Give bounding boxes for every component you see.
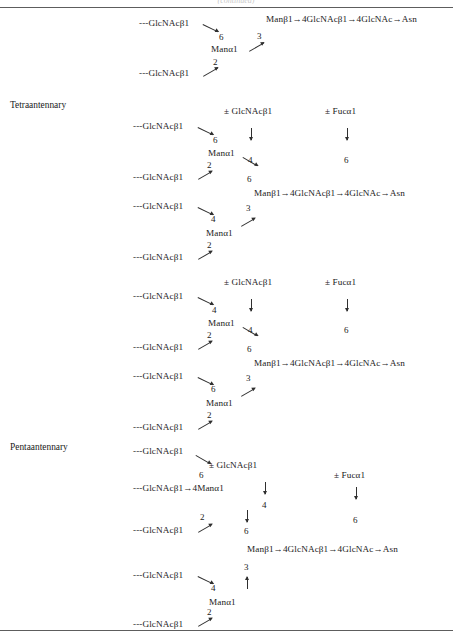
antenna-residue: ---GlcNAcβ1 (139, 18, 189, 29)
core-fucose-linkage-number: 6 (344, 325, 349, 335)
antenna-residue: ---GlcNAcβ1 (133, 371, 183, 382)
core-fucose-linkage-number: 6 (353, 515, 358, 525)
antenna-residue: ---GlcNAcβ1 (133, 446, 183, 457)
connector-line (203, 68, 218, 77)
bisecting-arrow (251, 299, 252, 311)
upper-arm-mannose: Manα1 (208, 318, 235, 329)
linkage-number: 2 (207, 410, 212, 420)
core-fucose-arrow (347, 299, 348, 311)
linkage-number: 6 (211, 384, 216, 394)
lower-arm-core-arrow (247, 577, 248, 589)
linkage-number: 2 (207, 330, 212, 340)
bottom-rule (0, 630, 453, 631)
bisecting-glcnac-label: ± GlcNAcβ1 (224, 106, 272, 117)
connector-line (249, 43, 264, 52)
connector-line (203, 24, 219, 32)
core-fucose-label: ± Fucα1 (334, 470, 365, 481)
upper-arm-core-arrow (247, 510, 248, 522)
antenna-residue: ---GlcNAcβ1 (139, 68, 189, 79)
bisecting-arrow (265, 482, 266, 494)
linkage-number: 3 (246, 373, 251, 383)
linkage-number: 6 (247, 174, 252, 184)
linkage-number: 2 (207, 607, 212, 617)
structure-name-tetraantennary: Tetraantennary (10, 100, 66, 111)
core-fucose-label: ± Fucα1 (325, 106, 356, 117)
linkage-number: 2 (213, 57, 218, 67)
upper-arm-mannose: Manα1 (208, 148, 235, 159)
linkage-number: 6 (219, 32, 224, 42)
core-fucose-arrow (347, 128, 348, 140)
connector-line (198, 251, 212, 260)
connector-line (198, 171, 212, 180)
bisecting-linkage-number: 4 (262, 500, 267, 510)
linkage-number: 6 (244, 526, 249, 536)
connector-line (198, 524, 212, 533)
linkage-number: 4 (211, 583, 216, 593)
linkage-number: 4 (212, 305, 217, 315)
linkage-number: 6 (247, 344, 252, 354)
antenna-residue: ---GlcNAcβ1 (133, 172, 183, 183)
core-fucose-linkage-number: 6 (344, 155, 349, 165)
linkage-number: 6 (199, 470, 204, 480)
core-chain: Manβ1→4GlcNAcβ1→4GlcNAc→Asn (266, 14, 417, 25)
antenna-residue: ---GlcNAcβ1 (133, 525, 183, 536)
bisecting-arrow (251, 128, 252, 140)
core-chain: Manβ1→4GlcNAcβ1→4GlcNAc→Asn (254, 188, 405, 199)
antenna-residue: ---GlcNAcβ1 (133, 252, 183, 263)
connector-line (198, 297, 214, 305)
antenna-residue: ---GlcNAcβ1 (133, 342, 183, 353)
linkage-number: 3 (246, 203, 251, 213)
antenna-residue: ---GlcNAcβ1 (133, 291, 183, 302)
bisecting-glcnac-label: ± GlcNAcβ1 (224, 277, 272, 288)
lower-arm-mannose: Manα1 (209, 597, 236, 608)
antenna-residue: ---GlcNAcβ1 (133, 201, 183, 212)
linkage-number: 2 (200, 512, 205, 522)
lower-arm-mannose: Manα1 (206, 228, 233, 239)
connector-line (241, 218, 255, 227)
linkage-number: 3 (257, 31, 262, 41)
connector-line (241, 388, 255, 397)
linkage-number: 2 (207, 240, 212, 250)
branch-mannose: Manα1 (211, 44, 238, 55)
antenna-residue: ---GlcNAcβ1 (133, 422, 183, 433)
upper-arm-mannose-with-antenna: ---GlcNAcβ1→4Manα1 (133, 483, 224, 494)
antenna-residue: ---GlcNAcβ1 (133, 570, 183, 581)
top-rule (0, 7, 453, 8)
core-fucose-label: ± Fucα1 (325, 277, 356, 288)
core-fucose-arrow (356, 487, 357, 499)
connector-line (198, 618, 212, 627)
connector-line (198, 421, 212, 430)
lower-arm-mannose: Manα1 (206, 398, 233, 409)
structure-name-pentaantennary: Pentaantennary (10, 442, 68, 453)
connector-line (198, 127, 214, 135)
core-chain: Manβ1→4GlcNAcβ1→4GlcNAc→Asn (247, 544, 398, 555)
linkage-number: 2 (207, 160, 212, 170)
core-chain: Manβ1→4GlcNAcβ1→4GlcNAc→Asn (254, 358, 405, 369)
bisecting-glcnac-label: ± GlcNAcβ1 (209, 460, 257, 471)
antenna-residue: ---GlcNAcβ1 (133, 121, 183, 132)
linkage-number: 3 (244, 562, 249, 572)
figure-page: (continued) ---GlcNAcβ1 6 ---GlcNAcβ1 2 … (0, 0, 453, 636)
linkage-number: 6 (213, 135, 218, 145)
antenna-residue: ---GlcNAcβ1 (133, 619, 183, 630)
linkage-number: 4 (211, 214, 216, 224)
connector-line (198, 341, 212, 350)
clipped-header-text: (continued) (196, 0, 276, 4)
